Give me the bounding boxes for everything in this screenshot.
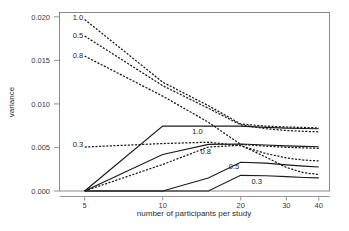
y-tick-label: 0.020 <box>31 13 50 22</box>
x-axis-ticks: 510203040 <box>60 197 330 210</box>
curve-1.0-solid <box>85 126 319 191</box>
curve-label-0.8-solid: 0.8 <box>201 147 211 156</box>
y-tick-label: 0.010 <box>31 100 50 109</box>
curve-label-0.8: 0.8 <box>73 51 83 60</box>
y-tick-label: 0.000 <box>31 187 50 196</box>
curve-label-0.5-solid: 0.5 <box>229 162 239 171</box>
curve-label-0.3-solid: 0.3 <box>251 177 261 186</box>
y-axis-title: variance <box>7 86 16 117</box>
x-tick-label: 40 <box>315 201 323 210</box>
variance-vs-participants-plot: 0.0000.0050.0100.0150.020 510203040 1.00… <box>0 0 349 231</box>
curve-1.0 <box>85 19 319 127</box>
x-axis-title: number of participants per study <box>137 209 251 218</box>
curve-label-1.0-solid: 1.0 <box>192 127 202 136</box>
curve-label-0.5: 0.5 <box>73 31 83 40</box>
curve-label-0.3-dashed: 0.3 <box>73 140 83 149</box>
curve-0.5 <box>85 36 319 132</box>
y-tick-label: 0.015 <box>31 56 50 65</box>
curve-labels: 1.00.50.80.31.00.80.50.3 <box>73 13 262 186</box>
chart-figure: 0.0000.0050.0100.0150.020 510203040 1.00… <box>0 0 349 231</box>
y-axis-ticks: 0.0000.0050.0100.0150.020 <box>31 13 59 196</box>
y-tick-label: 0.005 <box>31 143 50 152</box>
plot-frame <box>60 13 330 192</box>
x-tick-label: 30 <box>282 201 290 210</box>
curve-label-1.0: 1.0 <box>73 13 83 22</box>
curve-0.3-solid <box>85 175 319 191</box>
x-tick-label: 5 <box>83 201 87 210</box>
data-curves <box>85 19 319 191</box>
